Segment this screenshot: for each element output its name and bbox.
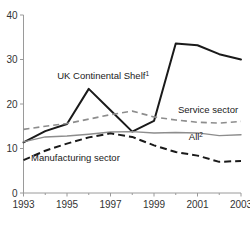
annotation-manufacturing-sector: Manufacturing sector (31, 152, 120, 163)
y-axis-tick-labels: 010203040 (6, 10, 18, 199)
chart-series-annotations: UK Continental Shelf1Service sectorAll2M… (31, 70, 238, 163)
chart-container: 010203040 199319951997199920012003 UK Co… (0, 0, 250, 229)
x-axis-label: 1993 (12, 199, 35, 210)
x-axis-tick-labels: 199319951997199920012003 (12, 199, 250, 210)
x-axis-label: 1997 (99, 199, 122, 210)
annotation-service-sector: Service sector (178, 104, 238, 115)
chart-series-lines (24, 43, 242, 161)
series-line-uk-continental-shelf (24, 43, 242, 142)
line-chart: 010203040 199319951997199920012003 UK Co… (0, 0, 250, 229)
x-axis-label: 1999 (143, 199, 166, 210)
y-axis-label: 40 (6, 10, 18, 21)
x-axis-label: 1995 (56, 199, 79, 210)
y-axis-label: 30 (6, 54, 18, 65)
y-axis-label: 10 (6, 143, 18, 154)
annotation-uk-continental-shelf: UK Continental Shelf1 (57, 70, 149, 82)
y-axis-label: 0 (12, 188, 18, 199)
x-axis-label: 2001 (186, 199, 209, 210)
x-axis-label: 2003 (230, 199, 250, 210)
annotation-all: All2 (189, 131, 204, 143)
y-axis-label: 20 (6, 99, 18, 110)
